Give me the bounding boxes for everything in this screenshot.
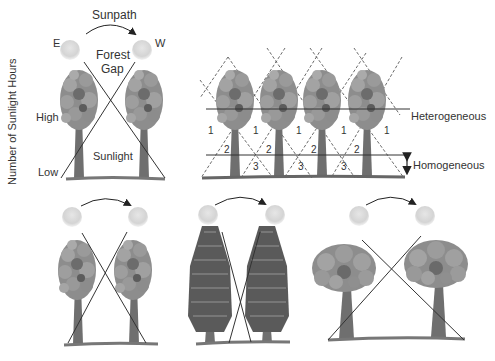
sunpath-arrow-icon bbox=[215, 197, 265, 205]
tree-row-3-icon bbox=[303, 70, 341, 130]
zone-label: 2 bbox=[354, 145, 360, 155]
panel-d-conifer bbox=[188, 197, 290, 344]
tree-left-icon bbox=[312, 244, 376, 292]
zone-label: 3 bbox=[253, 162, 259, 172]
ground-line bbox=[66, 178, 165, 180]
sunpath-arrow-icon bbox=[86, 25, 135, 34]
tree-left-icon bbox=[58, 240, 96, 300]
tree-left-icon bbox=[60, 70, 98, 130]
tree-row-2-icon bbox=[260, 70, 298, 130]
conifer-left-icon bbox=[188, 226, 232, 332]
zone-label: 1 bbox=[341, 126, 347, 136]
east-label: E bbox=[53, 38, 60, 49]
panel-b-stand-row bbox=[200, 48, 410, 178]
panel-e-wide-crown bbox=[312, 197, 468, 340]
zone-label: 1 bbox=[208, 126, 214, 136]
high-label: High bbox=[36, 112, 59, 123]
zone-label: 2 bbox=[224, 145, 230, 155]
sun-east-icon bbox=[349, 206, 369, 226]
forest-gap-label-line1: Forest bbox=[96, 49, 130, 61]
sun-west-icon bbox=[132, 40, 152, 60]
west-label: W bbox=[155, 38, 165, 49]
sun-east-icon bbox=[62, 207, 82, 227]
tree-row-4-icon bbox=[348, 70, 386, 130]
forest-gap-sunlight-diagram: Number of Sunlight Hours Sunpath E W For… bbox=[0, 0, 495, 361]
sunpath-label: Sunpath bbox=[92, 9, 137, 21]
zone-label: 1 bbox=[384, 126, 390, 136]
heterogeneous-label: Heterogeneous bbox=[411, 111, 486, 122]
low-label: Low bbox=[38, 167, 58, 178]
y-axis-label: Number of Sunlight Hours bbox=[6, 58, 18, 185]
diagram-canvas bbox=[0, 0, 495, 361]
zone-label: 3 bbox=[341, 162, 347, 172]
sun-east-icon bbox=[198, 205, 218, 225]
sunpath-arrow-icon bbox=[366, 197, 415, 205]
zone-label: 1 bbox=[296, 126, 302, 136]
zone-label: 1 bbox=[253, 126, 259, 136]
zone-label: 2 bbox=[311, 145, 317, 155]
conifer-right-icon bbox=[245, 226, 289, 332]
sun-east-icon bbox=[60, 40, 80, 60]
sunpath-arrow-icon bbox=[81, 199, 130, 206]
zone-label: 2 bbox=[266, 145, 272, 155]
tree-right-icon bbox=[114, 240, 152, 300]
sun-west-icon bbox=[128, 207, 148, 227]
panel-c-broadleaf bbox=[58, 199, 158, 345]
tree-right-icon bbox=[125, 70, 163, 130]
tree-right-icon bbox=[404, 240, 468, 288]
sun-west-icon bbox=[415, 206, 435, 226]
tree-row-1-icon bbox=[216, 70, 254, 130]
ground-line bbox=[202, 176, 405, 178]
sun-west-icon bbox=[265, 205, 285, 225]
homogeneous-label: Homogeneous bbox=[413, 160, 485, 171]
forest-gap-label-line2: Gap bbox=[101, 63, 124, 75]
sunlight-label: Sunlight bbox=[93, 151, 133, 162]
zone-label: 3 bbox=[298, 162, 304, 172]
